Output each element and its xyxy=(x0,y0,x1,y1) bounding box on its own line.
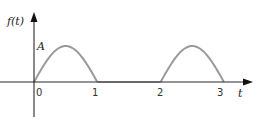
x-tick-label: 0 xyxy=(36,87,42,98)
x-tick-label: 2 xyxy=(157,87,163,98)
signal-plot: f(t) A t 0 1 2 3 xyxy=(0,0,258,120)
t-axis-arrow-icon xyxy=(243,79,253,86)
x-tick-label: 1 xyxy=(92,87,98,98)
f-axis-arrow-icon xyxy=(31,12,38,22)
half-sine-pulse xyxy=(161,46,224,82)
x-tick-label: 3 xyxy=(217,87,223,98)
x-axis-label: t xyxy=(238,87,243,100)
amplitude-label: A xyxy=(36,40,45,53)
y-axis-label: f(t) xyxy=(6,15,24,28)
